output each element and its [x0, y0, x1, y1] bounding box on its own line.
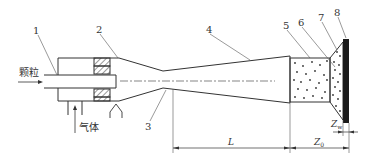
- gas-inlet-arrow: [73, 105, 77, 133]
- convergent-section: [119, 58, 163, 101]
- powder-injector-tube: [44, 75, 116, 88]
- part-label-6: 6: [298, 17, 304, 28]
- hatched-seal: [94, 58, 110, 101]
- heater-symbol: [110, 104, 122, 118]
- part-label-7: 7: [318, 12, 324, 23]
- substrate: [343, 39, 349, 123]
- part-label-2: 2: [96, 24, 102, 35]
- part-label-1: 1: [33, 25, 39, 36]
- divergent-section: [163, 56, 290, 103]
- part-label-8: 8: [334, 7, 340, 18]
- nozzle-diagram: 颗粒 气体: [0, 0, 380, 163]
- part-label-5: 5: [283, 20, 289, 31]
- dimension-Zw: [333, 131, 358, 134]
- particle-inlet-arrow: [18, 80, 43, 84]
- dimension-Z0-label: Z0: [313, 137, 324, 148]
- part-label-4: 4: [206, 24, 212, 35]
- bow-shock-region: [330, 42, 343, 120]
- leader-lines: [38, 17, 346, 121]
- particles-label: 颗粒: [19, 66, 39, 78]
- gas-label: 气体: [79, 121, 99, 133]
- particle-jet: [290, 58, 330, 102]
- dimension-L-label: L: [227, 137, 234, 147]
- part-label-3: 3: [145, 121, 151, 132]
- dimension-Zw-label: Zw: [330, 119, 343, 130]
